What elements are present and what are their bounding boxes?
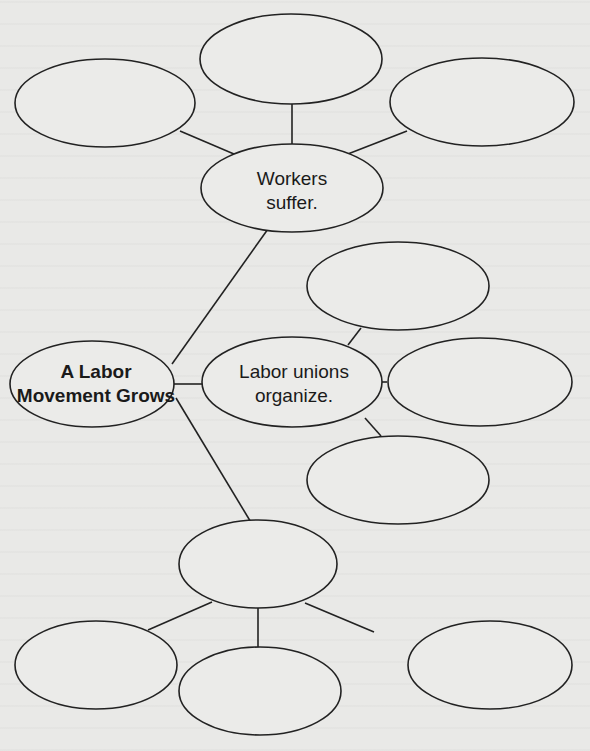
blank-oval-third-branch[interactable] xyxy=(179,520,337,608)
blank-oval-bottom-center[interactable] xyxy=(179,647,341,735)
main-line1: A Labor xyxy=(60,361,132,382)
oval-labor-unions xyxy=(202,337,382,427)
unions-line1: Labor unions xyxy=(239,361,349,382)
workers-line1: Workers xyxy=(257,168,327,189)
node-workers-suffer: Workers suffer. xyxy=(201,144,383,232)
connector-unions-rightupper xyxy=(348,328,361,345)
connector-unions-rightlower xyxy=(365,418,381,436)
main-line2: Movement Grows xyxy=(17,385,175,406)
connector-hub-bottomright xyxy=(305,603,374,632)
unions-line2: organize. xyxy=(255,385,333,406)
blank-oval-bottom-right[interactable] xyxy=(408,621,572,709)
blank-oval-unions-middle[interactable] xyxy=(388,338,572,426)
node-labor-unions-organize: Labor unions organize. xyxy=(202,337,382,427)
blank-oval-unions-upper[interactable] xyxy=(307,242,489,330)
blank-oval-top-left[interactable] xyxy=(15,59,195,147)
node-main-topic: A Labor Movement Grows xyxy=(10,341,175,427)
blank-oval-unions-lower[interactable] xyxy=(307,436,489,524)
blank-oval-top-center[interactable] xyxy=(200,14,382,104)
connector-hub-bottomleft xyxy=(148,602,212,630)
labor-movement-web-diagram: Workers suffer. A Labor Movement Grows L… xyxy=(0,0,590,751)
oval-main-topic xyxy=(10,341,174,427)
workers-line2: suffer. xyxy=(266,192,317,213)
blank-oval-bottom-left[interactable] xyxy=(15,621,177,709)
blank-oval-top-right[interactable] xyxy=(390,58,574,146)
